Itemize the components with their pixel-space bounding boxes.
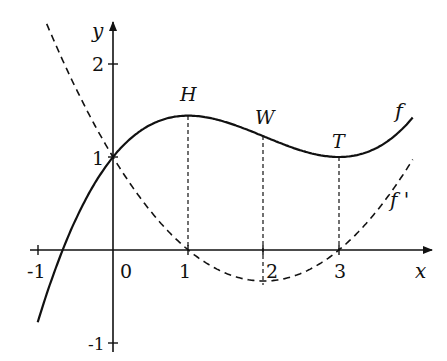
tick-label-x-1: 1 — [179, 260, 191, 282]
point-label-W: W — [255, 106, 276, 128]
x-axis-label: x — [415, 259, 426, 283]
point-label-T: T — [332, 130, 346, 152]
tick-label-x-minus1: -1 — [27, 260, 46, 282]
tick-label-x-0: 0 — [120, 260, 132, 282]
y-axis-label: y — [91, 19, 104, 43]
tick-label-x-2: 2 — [266, 260, 278, 282]
tick-label-y-1: 1 — [92, 147, 104, 169]
point-label-H: H — [179, 83, 197, 105]
tick-label-y-minus1: -1 — [88, 334, 105, 354]
tick-label-x-3: 3 — [334, 260, 346, 282]
tick-label-y-2: 2 — [92, 53, 104, 75]
curve-label-f: f — [393, 99, 406, 123]
drop-lines — [188, 116, 339, 285]
curve-label-f-prime: f ' — [388, 188, 409, 212]
function-graph: -1 0 1 2 3 x 2 1 -1 y H W T f f ' — [0, 0, 447, 361]
